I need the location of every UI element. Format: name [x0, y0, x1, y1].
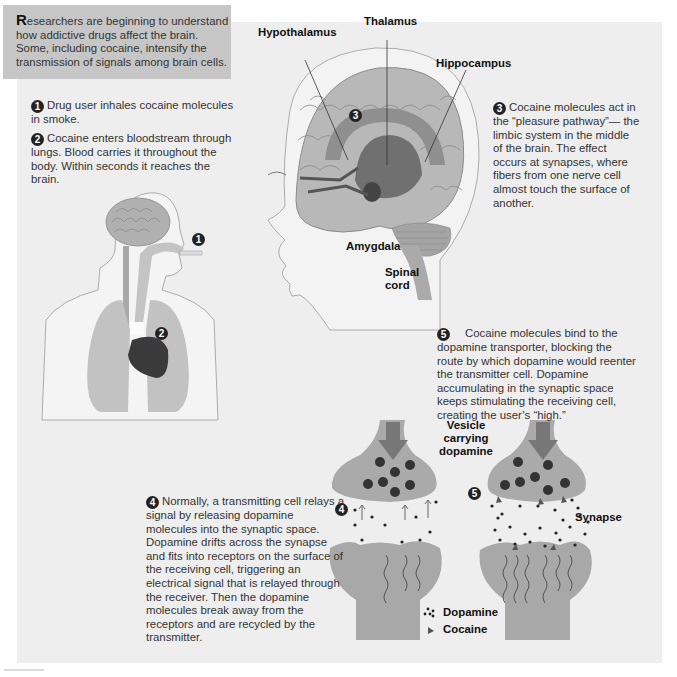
label-spinal-cord: Spinal cord: [385, 266, 419, 292]
step-4-text: 4Normally, a transmitting cell relays a …: [146, 495, 346, 645]
marker-brain-3: 3: [349, 109, 362, 122]
step-5-caption: Cocaine molecules bind to the dopamine t…: [437, 327, 636, 421]
synapse-normal: [330, 420, 442, 640]
intro-box: Researchers are beginning to understand …: [3, 5, 231, 79]
legend-cocaine-label: Cocaine: [443, 623, 487, 636]
label-vesicle-line2: carrying: [444, 432, 489, 444]
label-amygdala: Amygdala: [346, 240, 400, 253]
label-hippocampus: Hippocampus: [436, 57, 511, 70]
dopamine-dots-icon: [424, 608, 435, 618]
footer-mark: [4, 669, 44, 671]
step-1-marker: 1: [31, 100, 44, 113]
step-3-caption: Cocaine molecules act in the “pleasure p…: [493, 101, 639, 209]
head-brain-figure: [268, 40, 479, 330]
step-3-text: 3Cocaine molecules act in the “pleasure …: [493, 101, 641, 210]
marker-body-1: 1: [192, 233, 205, 246]
legend-dopamine-label: Dopamine: [443, 606, 498, 619]
intro-dropcap: R: [16, 11, 27, 28]
cocaine-triangle-icon: [428, 627, 434, 634]
step-2-caption: Cocaine enters bloodstream through lungs…: [31, 132, 231, 185]
step-4-caption: Normally, a transmitting cell relays a s…: [146, 495, 344, 643]
intro-text: esearchers are beginning to understand h…: [16, 15, 228, 68]
step-2-marker: 2: [31, 133, 44, 146]
label-thalamus: Thalamus: [364, 15, 417, 28]
step-4-marker: 4: [146, 496, 159, 509]
label-synapse: Synapse: [575, 511, 622, 524]
step-5-text: 5Cocaine molecules bind to the dopamine …: [437, 327, 637, 423]
marker-synapse-4: 4: [335, 503, 348, 516]
label-spinal-line1: Spinal: [385, 266, 419, 278]
body-figure: [42, 193, 218, 420]
label-vesicle-line1: Vesicle: [447, 419, 486, 431]
step-3-marker: 3: [493, 102, 506, 115]
label-vesicle: Vesicle carrying dopamine: [436, 419, 496, 458]
marker-synapse-5: 5: [468, 487, 481, 500]
step-1-caption: Drug user inhales cocaine molecules in s…: [31, 99, 233, 125]
step-2-text: 2Cocaine enters bloodstream through lung…: [31, 132, 236, 187]
step-5-marker: 5: [437, 328, 450, 341]
label-spinal-line2: cord: [385, 279, 410, 291]
marker-body-2: 2: [155, 327, 168, 340]
step-1-text: 1Drug user inhales cocaine molecules in …: [31, 99, 241, 127]
label-hypothalamus: Hypothalamus: [258, 26, 336, 39]
label-vesicle-line3: dopamine: [439, 445, 493, 457]
